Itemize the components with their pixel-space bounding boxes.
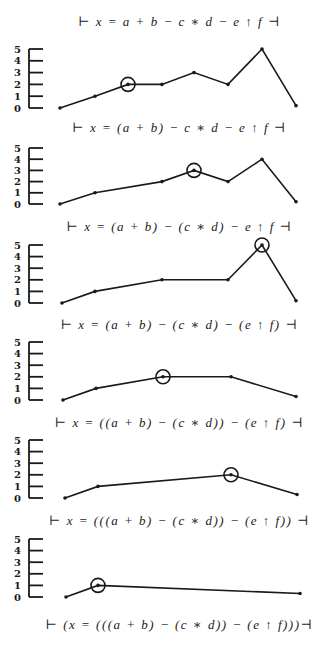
data-point bbox=[126, 83, 130, 87]
y-tick-label: 2 bbox=[14, 79, 21, 90]
data-point bbox=[229, 473, 233, 477]
precedence-curve bbox=[65, 475, 297, 498]
data-point bbox=[295, 493, 299, 497]
data-point bbox=[160, 180, 164, 184]
y-tick-label: 5 bbox=[14, 534, 21, 545]
data-point bbox=[298, 592, 302, 596]
y-tick-label: 1 bbox=[14, 91, 21, 102]
y-tick-label: 0 bbox=[14, 199, 21, 210]
y-tick-label: 2 bbox=[14, 568, 21, 579]
y-tick-label: 0 bbox=[14, 395, 21, 406]
y-tick-label: 5 bbox=[14, 337, 21, 348]
y-tick-label: 4 bbox=[14, 446, 21, 457]
y-tick-label: 5 bbox=[14, 143, 21, 154]
data-point bbox=[64, 595, 68, 599]
data-point bbox=[58, 202, 62, 206]
precedence-curve bbox=[62, 245, 296, 303]
data-point bbox=[96, 584, 100, 588]
data-point bbox=[93, 290, 97, 294]
y-axis: 012345 bbox=[14, 435, 43, 504]
y-tick-label: 4 bbox=[14, 55, 21, 66]
data-point bbox=[294, 104, 298, 108]
y-tick-label: 4 bbox=[14, 348, 21, 359]
y-axis: 012345 bbox=[14, 534, 43, 603]
y-tick-label: 5 bbox=[14, 240, 21, 251]
precedence-curve bbox=[63, 377, 296, 400]
data-point bbox=[160, 278, 164, 282]
data-point bbox=[229, 375, 233, 379]
data-point bbox=[60, 301, 64, 305]
y-tick-label: 0 bbox=[14, 103, 21, 114]
data-point bbox=[93, 191, 97, 195]
y-tick-label: 1 bbox=[14, 383, 21, 394]
y-tick-label: 2 bbox=[14, 371, 21, 382]
data-point bbox=[226, 83, 230, 87]
y-tick-label: 2 bbox=[14, 176, 21, 187]
y-tick-label: 3 bbox=[14, 165, 21, 176]
level-chart-6: 012345 bbox=[14, 534, 302, 603]
y-tick-label: 1 bbox=[14, 187, 21, 198]
y-tick-label: 2 bbox=[14, 274, 21, 285]
level-chart-2: 012345 bbox=[14, 143, 298, 210]
data-point bbox=[63, 496, 67, 500]
y-axis: 012345 bbox=[14, 143, 43, 210]
precedence-curve bbox=[60, 49, 296, 108]
y-tick-label: 3 bbox=[14, 360, 21, 371]
data-point bbox=[160, 83, 164, 87]
y-tick-label: 1 bbox=[14, 481, 21, 492]
y-axis: 012345 bbox=[14, 240, 43, 309]
level-chart-4: 012345 bbox=[14, 337, 298, 406]
y-tick-label: 4 bbox=[14, 251, 21, 262]
y-axis: 012345 bbox=[14, 44, 43, 114]
data-point bbox=[294, 299, 298, 303]
y-tick-label: 4 bbox=[14, 154, 21, 165]
y-tick-label: 5 bbox=[14, 44, 21, 55]
y-tick-label: 3 bbox=[14, 67, 21, 78]
y-tick-label: 3 bbox=[14, 458, 21, 469]
data-point bbox=[226, 278, 230, 282]
data-point bbox=[192, 169, 196, 173]
data-point bbox=[260, 243, 264, 247]
data-point bbox=[192, 71, 196, 75]
data-point bbox=[58, 106, 62, 110]
precedence-level-diagram: 012345012345012345012345012345012345 bbox=[0, 0, 319, 661]
y-tick-label: 3 bbox=[14, 263, 21, 274]
data-point bbox=[61, 398, 65, 402]
level-chart-1: 012345 bbox=[14, 44, 298, 114]
y-tick-label: 4 bbox=[14, 545, 21, 556]
data-point bbox=[161, 375, 165, 379]
y-axis: 012345 bbox=[14, 337, 43, 406]
y-tick-label: 3 bbox=[14, 557, 21, 568]
data-point bbox=[294, 200, 298, 204]
level-chart-5: 012345 bbox=[14, 435, 299, 504]
data-point bbox=[96, 485, 100, 489]
y-tick-label: 0 bbox=[14, 298, 21, 309]
precedence-curve bbox=[60, 159, 296, 204]
y-tick-label: 2 bbox=[14, 469, 21, 480]
y-tick-label: 0 bbox=[14, 493, 21, 504]
data-point bbox=[294, 395, 298, 399]
y-tick-label: 5 bbox=[14, 435, 21, 446]
y-tick-label: 0 bbox=[14, 592, 21, 603]
data-point bbox=[94, 387, 98, 391]
data-point bbox=[93, 94, 97, 98]
y-tick-label: 1 bbox=[14, 580, 21, 591]
data-point bbox=[226, 180, 230, 184]
data-point bbox=[260, 47, 264, 51]
level-chart-3: 012345 bbox=[14, 238, 298, 309]
data-point bbox=[260, 157, 264, 161]
y-tick-label: 1 bbox=[14, 286, 21, 297]
